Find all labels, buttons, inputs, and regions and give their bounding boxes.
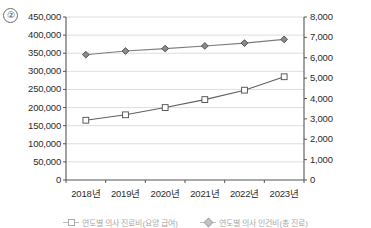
y-axis-left-tick: 0	[56, 174, 61, 185]
y-axis-left-tick: 350,000	[28, 47, 61, 58]
y-axis-left-tick: 50,000	[33, 156, 61, 167]
legend-item: 연도별 의사 진료비(요양 급여)	[63, 216, 178, 228]
y-axis-right-tick: 5,000	[310, 72, 333, 83]
x-axis-tick: 2021년	[185, 186, 225, 200]
y-axis-left-tick: 400,000	[28, 29, 61, 40]
chart-legend: 연도별 의사 진료비(요양 급여)연도별 의사 인건비(총 진료)	[0, 216, 371, 228]
legend-label: 연도별 의사 진료비(요양 급여)	[82, 217, 178, 228]
x-axis-tick: 2018년	[66, 186, 106, 200]
square-marker-icon	[63, 219, 79, 226]
y-axis-right-tick: 1,000	[310, 154, 333, 165]
x-axis-tick: 2023년	[264, 186, 304, 200]
legend-label: 연도별 의사 인건비(총 진료)	[219, 217, 308, 228]
y-axis-left-tick: 100,000	[28, 138, 61, 149]
y-axis-right-tick: 4,000	[310, 93, 333, 104]
y-axis-right-tick: 0	[310, 174, 315, 185]
y-axis-left-tick: 200,000	[28, 102, 61, 113]
y-axis-right-tick: 8,000	[310, 11, 333, 22]
x-axis-tick: 2020년	[145, 186, 185, 200]
y-axis-left-tick: 150,000	[28, 120, 61, 131]
y-axis-right-tick: 7,000	[310, 31, 333, 42]
y-axis-left-tick: 250,000	[28, 83, 61, 94]
chart-figure: ② 050,000100,000150,000200,000250,000300…	[0, 0, 371, 228]
legend-item: 연도별 의사 인건비(총 진료)	[200, 216, 308, 228]
diamond-marker-icon	[200, 219, 216, 226]
y-axis-right-tick: 2,000	[310, 133, 333, 144]
x-axis-tick: 2019년	[106, 186, 146, 200]
x-axis-tick: 2022년	[225, 186, 265, 200]
y-axis-right-tick: 3,000	[310, 113, 333, 124]
y-axis-left-tick: 300,000	[28, 65, 61, 76]
y-axis-left-tick: 450,000	[28, 11, 61, 22]
y-axis-right-tick: 6,000	[310, 52, 333, 63]
